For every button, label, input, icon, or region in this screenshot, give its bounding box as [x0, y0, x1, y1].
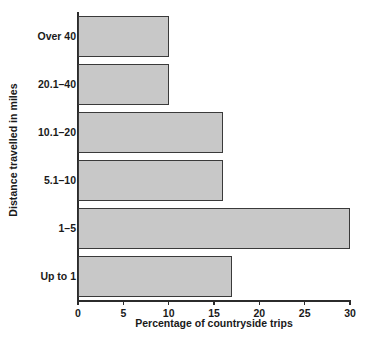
x-axis-tick: [349, 300, 350, 305]
y-axis-title: Distance travelled in miles: [0, 0, 26, 300]
x-axis-tick: [168, 300, 169, 305]
y-axis-tick-labels: Over 4020.1–4010.1–205.1–101–5Up to 1: [26, 12, 76, 300]
y-axis-tick-label: 5.1–10: [26, 174, 76, 186]
x-axis-tick: [123, 300, 124, 305]
x-axis-tick: [259, 300, 260, 305]
x-axis-title: Percentage of countryside trips: [78, 317, 350, 329]
bar-chart-figure: Distance travelled in miles Over 4020.1–…: [0, 0, 373, 347]
y-axis-title-text: Distance travelled in miles: [7, 83, 19, 216]
bar: [78, 160, 223, 201]
bar: [78, 256, 232, 297]
y-axis-tick-label: 10.1–20: [26, 126, 76, 138]
x-axis-tick: [213, 300, 214, 305]
y-axis-tick-label: Up to 1: [26, 270, 76, 282]
x-axis-tick: [77, 300, 78, 305]
bar: [78, 64, 169, 105]
y-axis-tick-label: Over 40: [26, 30, 76, 42]
y-axis-tick-label: 1–5: [26, 222, 76, 234]
y-axis-tick-label: 20.1–40: [26, 78, 76, 90]
x-axis-tick: [304, 300, 305, 305]
bar: [78, 112, 223, 153]
plot-area: 051015202530: [78, 12, 350, 300]
bar: [78, 16, 169, 57]
bar: [78, 208, 350, 249]
